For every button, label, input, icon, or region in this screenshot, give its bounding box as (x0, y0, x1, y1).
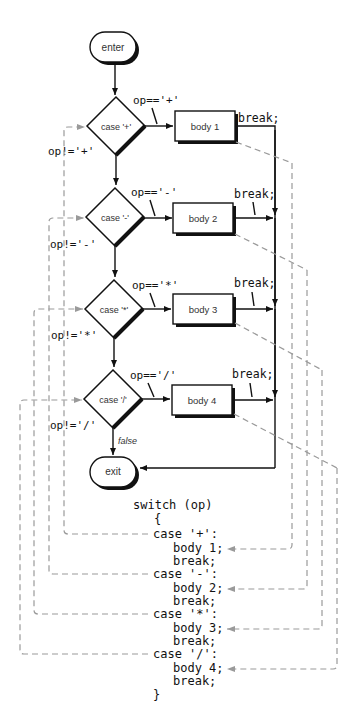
break-label: break; (238, 111, 280, 125)
decision-label: case '/' (99, 395, 127, 405)
true-condition: op=='+' (133, 94, 179, 107)
body-box-2: body 2 (173, 203, 236, 236)
code-line: break; (173, 634, 216, 648)
true-condition: op=='/' (130, 369, 176, 382)
decision-label: case '+' (101, 122, 131, 132)
body-label: body 2 (189, 213, 218, 224)
false-condition: op!='*' (51, 329, 97, 342)
enter-label: enter (102, 42, 125, 53)
body-box-4: body 4 (172, 385, 235, 418)
body-box-3: body 3 (173, 294, 236, 327)
code-line: body 4; (173, 661, 224, 675)
switch-flowchart: enter case '+' op=='+' op!='+' body 1 br… (0, 0, 355, 724)
body-label: body 1 (191, 121, 220, 132)
false-condition: op!='-' (50, 238, 96, 251)
code-line: break; (173, 674, 216, 688)
code-line: case '*': (153, 607, 218, 621)
dashed-links-right (227, 142, 337, 669)
false-condition: op!='+' (48, 145, 94, 158)
break-label: break; (234, 187, 276, 201)
enter-terminal: enter (90, 32, 139, 65)
decision-label: case '*' (100, 305, 129, 315)
true-condition: op=='*' (132, 279, 178, 292)
exit-terminal: exit (90, 457, 139, 490)
exit-label: exit (105, 466, 121, 477)
body-label: body 4 (188, 395, 217, 406)
code-line: } (153, 688, 160, 702)
false-condition: op!='/' (50, 419, 96, 432)
code-line: break; (173, 554, 216, 568)
code-line: body 3; (173, 621, 224, 635)
body-box-1: body 1 (175, 111, 238, 144)
code-line: case '-': (153, 567, 218, 581)
code-line: case '+': (153, 527, 218, 541)
code-line: switch (op) (133, 498, 212, 512)
break-label: break; (234, 276, 276, 290)
code-line: body 2; (173, 581, 224, 595)
body-label: body 3 (189, 304, 218, 315)
decision-label: case '-' (101, 213, 129, 223)
code-line: break; (173, 594, 216, 608)
code-listing: switch (op) { case '+': body 1; break; c… (133, 498, 224, 702)
break-label: break; (232, 367, 274, 381)
code-line: { (154, 512, 161, 526)
code-line: case '/': (153, 647, 218, 661)
true-condition: op=='-' (131, 186, 177, 199)
code-line: body 1; (173, 541, 224, 555)
false-label: false (118, 436, 137, 446)
